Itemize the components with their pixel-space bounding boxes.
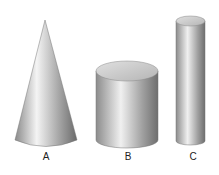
label-c: C (183, 151, 203, 162)
label-a: A (36, 151, 56, 162)
label-b: B (118, 151, 138, 162)
shape-b-cylinder (96, 61, 158, 148)
solids-diagram: A B C (0, 0, 219, 175)
shapes-canvas (0, 0, 219, 175)
shape-c-cylinder (176, 16, 205, 145)
shape-a-cone (15, 20, 77, 147)
